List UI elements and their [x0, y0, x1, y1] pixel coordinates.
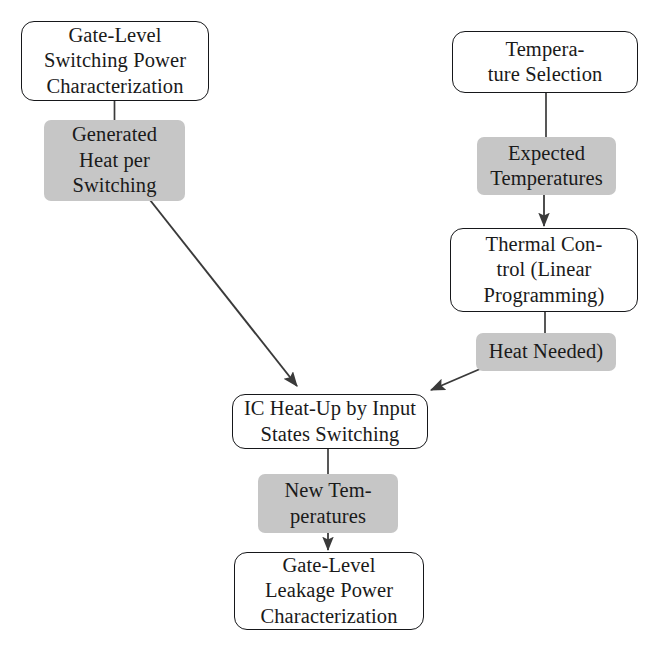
node-label: Heat Needed)	[476, 339, 616, 364]
node-ic-heat-up[interactable]: IC Heat-Up by Input States Switching	[232, 394, 428, 449]
node-heat-needed[interactable]: Heat Needed)	[476, 333, 616, 371]
node-generated-heat-per-switching[interactable]: Generated Heat per Switching	[44, 120, 185, 201]
node-gate-level-switching-power[interactable]: Gate-Level Switching Power Characterizat…	[21, 21, 209, 101]
node-label: Gate-Level Switching Power Characterizat…	[22, 23, 208, 99]
node-expected-temperatures[interactable]: Expected Temperatures	[477, 137, 616, 195]
node-label: IC Heat-Up by Input States Switching	[233, 396, 427, 447]
node-label: Tempera- ture Selection	[453, 37, 637, 88]
node-label: Gate-Level Leakage Power Characterizatio…	[235, 553, 423, 629]
node-label: Expected Temperatures	[477, 141, 616, 192]
node-label: Thermal Con- trol (Linear Programming)	[451, 232, 637, 308]
node-temperature-selection[interactable]: Tempera- ture Selection	[452, 31, 638, 93]
edge-heat-needed-to-ic-heat-up	[431, 369, 480, 390]
node-label: Generated Heat per Switching	[44, 122, 185, 198]
edge-generated-heat-to-ic-heat-up	[150, 200, 297, 386]
node-thermal-control[interactable]: Thermal Con- trol (Linear Programming)	[450, 228, 638, 312]
node-new-temperatures[interactable]: New Tem- peratures	[258, 474, 398, 533]
node-gate-level-leakage-power[interactable]: Gate-Level Leakage Power Characterizatio…	[234, 552, 424, 630]
flowchart-canvas: Gate-Level Switching Power Characterizat…	[0, 0, 656, 653]
node-label: New Tem- peratures	[258, 478, 398, 529]
